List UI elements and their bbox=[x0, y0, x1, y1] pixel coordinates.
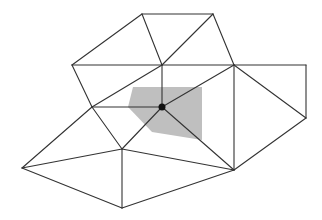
edge-I-L bbox=[234, 118, 306, 170]
edge-K-L bbox=[122, 149, 234, 170]
edge-G-J bbox=[22, 107, 92, 168]
edge-J-K bbox=[22, 149, 122, 168]
edge-A-D bbox=[142, 14, 162, 65]
edge-M-L bbox=[122, 170, 234, 208]
triangulation-diagram bbox=[0, 0, 322, 220]
edge-A-C bbox=[72, 14, 142, 65]
edge-B-E bbox=[213, 14, 234, 65]
edge-C-G bbox=[72, 65, 92, 107]
edge-B-D bbox=[162, 14, 213, 65]
edge-E-I bbox=[234, 65, 306, 118]
edge-J-M bbox=[22, 168, 122, 208]
center-vertex bbox=[159, 104, 166, 111]
edge-G-K bbox=[92, 107, 122, 149]
